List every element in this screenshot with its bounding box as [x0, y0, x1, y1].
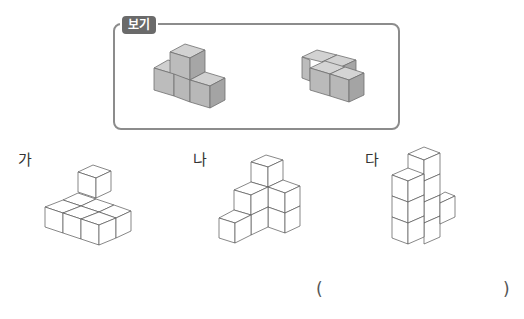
option-label-ga: 가 — [18, 148, 32, 169]
figure-na — [218, 152, 318, 262]
option-label-na: 나 — [193, 148, 207, 169]
answer-open-paren: ( — [316, 279, 323, 299]
example-shape-2 — [300, 45, 380, 115]
example-shape-1 — [150, 40, 250, 120]
answer-field[interactable] — [330, 280, 500, 302]
example-tag: 보기 — [120, 14, 158, 36]
option-label-da: 다 — [365, 148, 379, 169]
figure-ga — [44, 160, 144, 260]
figure-da — [392, 147, 472, 267]
answer-close-paren: ) — [503, 279, 510, 299]
